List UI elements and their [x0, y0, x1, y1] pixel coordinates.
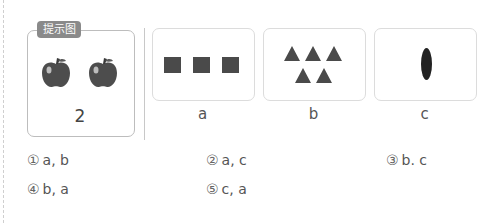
option-text: b. c: [402, 152, 427, 168]
option-1[interactable]: ①a, b: [27, 152, 69, 168]
margin-dashed-line: [3, 0, 4, 223]
card-label-a: a: [152, 105, 253, 123]
square-shape: [222, 57, 239, 73]
option-5[interactable]: ⑤c, a: [206, 181, 247, 197]
triangle-shape: [326, 46, 342, 61]
option-text: a, c: [222, 152, 247, 168]
card-label-c: c: [374, 105, 475, 123]
hint-count: 2: [27, 106, 133, 126]
vertical-divider: [144, 28, 145, 140]
option-number: ⑤: [206, 181, 219, 197]
option-3[interactable]: ③b. c: [386, 152, 427, 168]
apple-icon: [39, 56, 73, 90]
option-text: a, b: [43, 152, 69, 168]
triangle-shape: [284, 46, 300, 61]
option-number: ①: [27, 152, 40, 168]
option-2[interactable]: ②a, c: [206, 152, 247, 168]
card-b: [263, 28, 366, 101]
option-number: ③: [386, 152, 399, 168]
option-text: b, a: [43, 181, 69, 197]
oval-shape: [421, 48, 432, 80]
option-number: ④: [27, 181, 40, 197]
triangle-shape: [305, 46, 321, 61]
triangle-shape: [295, 68, 311, 83]
option-text: c, a: [222, 181, 247, 197]
option-number: ②: [206, 152, 219, 168]
square-shape: [193, 57, 210, 73]
apple-icon: [86, 56, 120, 90]
option-4[interactable]: ④b, a: [27, 181, 69, 197]
hint-tag: 提示图: [37, 21, 81, 38]
triangle-shape: [316, 68, 332, 83]
card-label-b: b: [263, 105, 364, 123]
square-shape: [164, 57, 181, 73]
